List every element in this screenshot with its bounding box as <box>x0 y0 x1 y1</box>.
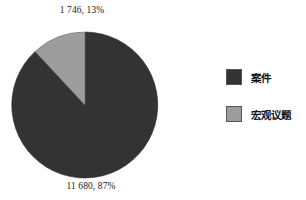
chart-legend: 案件 宏观议题 <box>226 68 306 142</box>
legend-label-macro: 宏观议题 <box>251 107 291 122</box>
legend-swatch-macro-icon <box>226 106 242 122</box>
pie-chart-figure: 1 746, 13% 11 680, 87% 案件 宏观议题 <box>0 0 306 200</box>
legend-swatch-case-icon <box>226 69 242 85</box>
legend-label-case: 案件 <box>251 70 271 85</box>
legend-item-case: 案件 <box>226 68 306 86</box>
pie-graphic <box>0 0 180 200</box>
pie-plot-area: 1 746, 13% 11 680, 87% <box>0 0 180 200</box>
pie-label-macro: 1 746, 13% <box>0 5 164 15</box>
legend-item-macro: 宏观议题 <box>226 105 306 123</box>
pie-label-case: 11 680, 87% <box>0 181 182 191</box>
